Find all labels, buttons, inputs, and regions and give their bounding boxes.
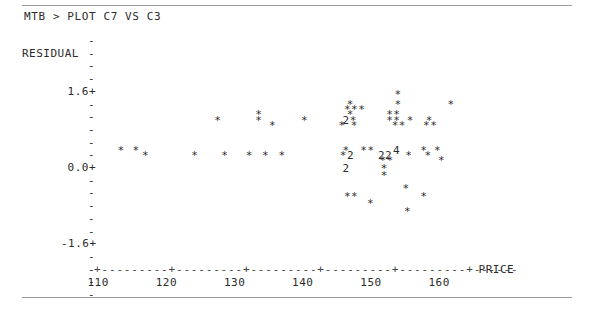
y-axis-tick-mark: - bbox=[88, 175, 95, 186]
data-point-marker: * bbox=[404, 206, 411, 217]
minitab-command-prompt: MTB > PLOT C7 VS C3 bbox=[24, 10, 161, 23]
y-axis-tick-mark: - bbox=[88, 60, 95, 71]
data-point-marker: 2 bbox=[343, 163, 350, 174]
x-axis-title: PRICE bbox=[479, 264, 515, 275]
data-point-marker: * bbox=[278, 150, 285, 161]
data-point-marker: * bbox=[221, 150, 228, 161]
x-axis-tick-label: 110 bbox=[88, 277, 109, 288]
x-axis-tick-label: 160 bbox=[429, 277, 450, 288]
y-axis-tick-mark: - bbox=[88, 124, 95, 135]
data-point-marker: * bbox=[367, 198, 374, 209]
y-axis-tick-label: 0.0+ bbox=[68, 162, 97, 173]
y-axis-tick-mark: - bbox=[88, 137, 95, 148]
data-point-marker: * bbox=[438, 155, 445, 166]
y-axis-tick-mark: - bbox=[88, 149, 95, 160]
data-point-marker: * bbox=[255, 115, 262, 126]
y-axis-tick-mark: - bbox=[88, 200, 95, 211]
top-divider-rule bbox=[22, 5, 572, 6]
x-axis-tick-label: 140 bbox=[292, 277, 313, 288]
data-point-marker: * bbox=[191, 150, 198, 161]
x-axis-tick-label: 120 bbox=[156, 277, 177, 288]
y-axis-tick-mark: - bbox=[88, 73, 95, 84]
data-point-marker: * bbox=[420, 191, 427, 202]
terminal-screenshot: MTB > PLOT C7 VS C3 ----1.6+-----0.0+---… bbox=[0, 0, 593, 312]
scatter-plot-canvas: ----1.6+-----0.0+------1.6+----RESIDUAL*… bbox=[0, 24, 593, 294]
data-point-marker: * bbox=[262, 150, 269, 161]
x-axis-line: +---------+---------+---------+---------… bbox=[94, 264, 518, 275]
data-point-marker: * bbox=[403, 183, 410, 194]
data-point-marker: * bbox=[381, 170, 388, 181]
y-axis-tick-mark: - bbox=[88, 99, 95, 110]
data-point-marker: * bbox=[407, 115, 414, 126]
data-point-marker: * bbox=[301, 115, 308, 126]
y-axis-tick-mark: - bbox=[88, 251, 95, 262]
data-point-marker: * bbox=[405, 150, 412, 161]
y-axis-tick-mark: - bbox=[88, 226, 95, 237]
data-point-marker: *2 bbox=[340, 150, 354, 161]
x-axis-tick-label: 150 bbox=[360, 277, 381, 288]
data-point-marker: ** bbox=[423, 120, 437, 131]
data-point-marker: * bbox=[448, 99, 455, 110]
y-axis-tick-label: 1.6+ bbox=[68, 86, 97, 97]
y-axis-tick-mark: - bbox=[88, 48, 95, 59]
y-axis-tick-mark: - bbox=[88, 35, 95, 46]
data-point-marker: * bbox=[338, 120, 345, 131]
data-point-marker: * bbox=[424, 150, 431, 161]
y-axis-tick-mark: - bbox=[88, 187, 95, 198]
data-point-marker: * bbox=[214, 115, 221, 126]
data-point-marker: ** bbox=[360, 145, 374, 156]
bottom-divider-rule bbox=[22, 297, 572, 298]
data-point-marker: * bbox=[351, 120, 358, 131]
y-axis-tick-mark: - bbox=[88, 213, 95, 224]
y-axis-tick-mark: - bbox=[88, 111, 95, 122]
data-point-marker: * bbox=[269, 120, 276, 131]
data-point-marker: ** bbox=[392, 120, 406, 131]
data-point-marker: * bbox=[246, 150, 253, 161]
y-axis-tick-mark: - bbox=[88, 289, 95, 300]
data-point-marker: 4 bbox=[393, 145, 400, 156]
data-point-marker: * bbox=[132, 145, 139, 156]
data-point-marker: ** bbox=[344, 191, 358, 202]
data-point-marker: * bbox=[142, 150, 149, 161]
x-axis-tick-label: 130 bbox=[224, 277, 245, 288]
y-axis-title: RESIDUAL bbox=[22, 48, 79, 59]
data-point-marker: * bbox=[117, 145, 124, 156]
y-axis-tick-label: -1.6+ bbox=[61, 238, 97, 249]
